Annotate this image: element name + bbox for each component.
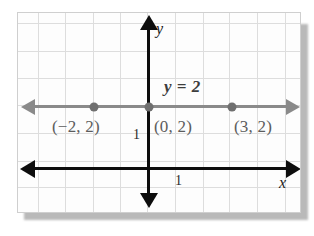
x-axis-left-arrow-icon — [20, 160, 35, 178]
y-axis-down-arrow-icon — [140, 193, 158, 208]
point-label-neg2-2: (−2, 2) — [52, 118, 100, 135]
function-line-y-equals-2 — [28, 105, 292, 108]
y-axis-unit-tick-label: 1 — [133, 128, 140, 142]
function-line-right-arrow-icon — [286, 99, 300, 115]
point-label-3-2: (3, 2) — [234, 118, 272, 135]
data-point-3-2 — [227, 102, 236, 111]
grid-lines — [18, 13, 300, 212]
function-label: y = 2 — [164, 78, 201, 95]
x-axis-unit-tick-label: 1 — [175, 174, 182, 188]
x-axis-right-arrow-icon — [286, 160, 301, 178]
point-label-0-2: (0, 2) — [154, 118, 192, 135]
y-axis-line — [147, 25, 150, 199]
x-axis-line — [28, 167, 292, 170]
data-point-0-2 — [144, 102, 153, 111]
data-point-neg2-2 — [89, 102, 98, 111]
x-axis-label: x — [279, 175, 286, 191]
figure-screenshot: y = 2 (−2, 2) (0, 2) (3, 2) 1 1 y x — [0, 0, 314, 236]
coordinate-plane-card: y = 2 (−2, 2) (0, 2) (3, 2) 1 1 y x — [17, 12, 301, 213]
y-axis-up-arrow-icon — [140, 15, 158, 30]
y-axis-label: y — [156, 21, 163, 37]
function-line-left-arrow-icon — [21, 99, 35, 115]
